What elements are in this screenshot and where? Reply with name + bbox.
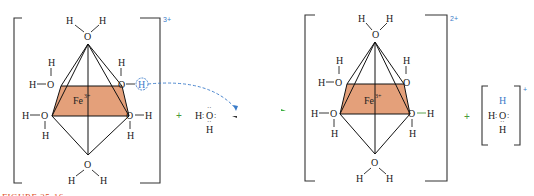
svg-text:H: H <box>403 55 410 66</box>
hydronium-bracket-close <box>514 86 520 145</box>
oxygen-bottom: O <box>84 159 91 170</box>
iron-label: Fe <box>73 95 84 106</box>
svg-text:H: H <box>99 15 106 26</box>
svg-text:H: H <box>356 173 363 184</box>
svg-text:O: O <box>335 77 342 88</box>
svg-text:O: O <box>372 29 379 40</box>
chemical-equation-diagram: 3+ Fe 3+ H H O O H H H O H H O <box>0 0 534 196</box>
proton-transfer-arrow <box>148 83 236 109</box>
left-bracket-open <box>14 18 22 183</box>
svg-text:O: O <box>330 108 337 119</box>
product-iron-charge: 3+ <box>375 93 382 99</box>
plus-sign-1: + <box>176 110 182 121</box>
hydronium-charge: + <box>523 86 527 93</box>
product-complex: 2+ Fe 3+ H H O O H H H O H H O H <box>305 13 458 184</box>
svg-text::: : <box>495 111 497 120</box>
svg-text:H: H <box>145 110 152 121</box>
iron-charge: 3+ <box>84 93 91 99</box>
equatorial-plane <box>52 86 129 116</box>
arrow-head-icon <box>233 105 238 111</box>
svg-text:H: H <box>311 108 318 119</box>
oxygen-lower-right: O <box>126 110 133 121</box>
hydronium-new-proton: H <box>499 95 506 106</box>
svg-text:H: H <box>127 130 134 141</box>
complex-charge: 3+ <box>163 16 171 23</box>
svg-text:H: H <box>386 13 393 24</box>
svg-text:H: H <box>331 128 338 139</box>
oxygen-upper-right: O <box>118 79 125 90</box>
hydronium-ion: + H H : O : ·· H <box>482 86 527 145</box>
svg-text:H: H <box>206 124 213 135</box>
svg-text:H: H <box>29 79 36 90</box>
left-bracket-close <box>140 18 160 183</box>
product-iron-label: Fe <box>364 95 375 106</box>
svg-text:O: O <box>371 157 378 168</box>
svg-text:H: H <box>42 130 49 141</box>
svg-text:H: H <box>336 55 343 66</box>
svg-text::: : <box>202 111 204 120</box>
right-bracket-close <box>425 15 447 181</box>
svg-text:H: H <box>427 108 434 119</box>
transferred-proton: H <box>138 79 145 90</box>
product-complex-charge: 2+ <box>450 15 458 22</box>
svg-text:H: H <box>22 110 29 121</box>
equilibrium-arrow <box>232 109 286 118</box>
oxygen-upper-left: O <box>47 79 54 90</box>
svg-text:H: H <box>318 77 325 88</box>
svg-text:··: ·· <box>207 104 212 112</box>
oxygen-top: O <box>84 31 91 42</box>
svg-text:O: O <box>408 108 415 119</box>
plus-sign-2: + <box>464 111 470 122</box>
oxygen-lower-left: O <box>41 110 48 121</box>
svg-text:H: H <box>409 128 416 139</box>
hydroxide-oxygen: O <box>403 77 410 88</box>
svg-text:H: H <box>358 13 365 24</box>
figure-caption: FIGURE 25-16 <box>2 192 64 196</box>
water-molecule: H : O ·· : ·· H <box>195 104 216 135</box>
svg-text:H: H <box>499 124 506 135</box>
right-bracket-open <box>305 15 315 181</box>
svg-text:H: H <box>68 175 75 186</box>
svg-text::: : <box>507 111 509 120</box>
svg-text:H: H <box>386 173 393 184</box>
reactant-complex: 3+ Fe 3+ H H O O H H H O H H O <box>14 15 238 186</box>
svg-text:H: H <box>100 175 107 186</box>
svg-text:H: H <box>118 57 125 68</box>
svg-text:H: H <box>66 15 73 26</box>
svg-text::: : <box>214 111 216 120</box>
svg-text:H: H <box>48 57 55 68</box>
